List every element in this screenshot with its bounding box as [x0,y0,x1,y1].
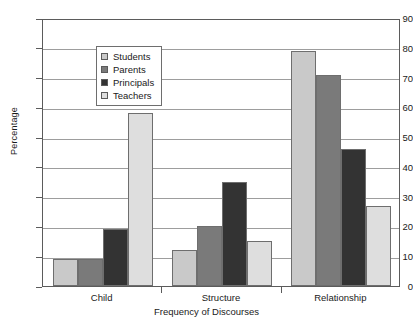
legend-swatch-icon [101,53,108,60]
x-axis-group-separator [281,287,282,293]
y-axis-title: Percentage [9,91,19,171]
legend-item-parents: Parents [101,63,154,76]
bar [291,51,316,286]
gridline [43,109,399,110]
bar [366,206,391,286]
legend-item-students: Students [101,50,154,63]
legend-swatch-icon [101,66,108,73]
legend-item-label: Parents [113,65,146,75]
x-axis-group-label: Structure [161,292,281,303]
x-axis-group-label: Child [42,292,162,303]
legend-item-principals: Principals [101,76,154,89]
gridline [43,139,399,140]
bar [128,113,153,286]
bar-chart: Percentage 0102030405060708090 StudentsP… [0,0,413,324]
legend-item-label: Principals [113,78,154,88]
bar [103,229,128,286]
bar [197,226,222,286]
bar [172,250,197,286]
bar [316,75,341,286]
legend-item-teachers: Teachers [101,89,154,102]
bar [222,182,247,286]
bar [78,259,103,286]
legend-item-label: Teachers [113,91,152,101]
bar [53,259,78,286]
x-axis-group-separator [161,287,162,293]
legend-swatch-icon [101,92,108,99]
x-axis-group-label: Relationship [280,292,400,303]
legend-swatch-icon [101,79,108,86]
plot-area: StudentsParentsPrincipalsTeachers [42,19,400,287]
bar [247,241,272,286]
x-axis-title: Frequency of Discourses [0,306,413,317]
legend-item-label: Students [113,52,151,62]
chart-legend: StudentsParentsPrincipalsTeachers [96,46,162,106]
bar [341,149,366,286]
